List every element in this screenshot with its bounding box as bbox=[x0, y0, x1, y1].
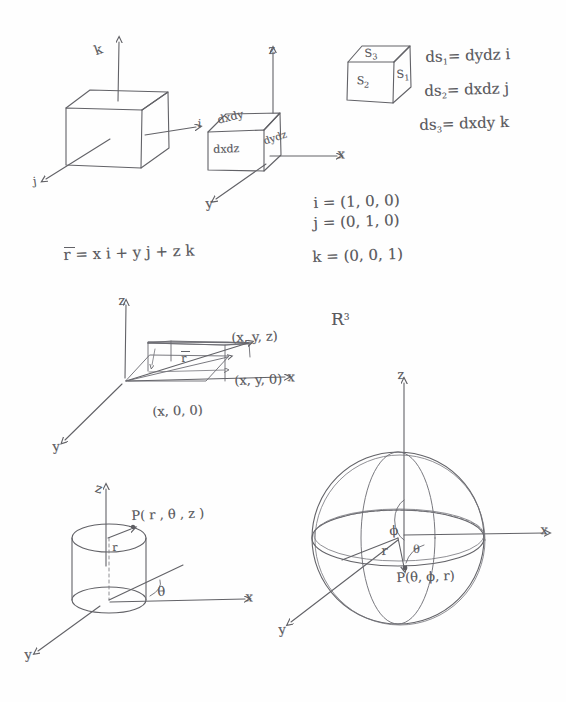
cartesian-vector-overbar bbox=[181, 351, 190, 352]
differential-cube-drawing bbox=[208, 52, 337, 199]
handwritten-ink-layer: .s { fill:none; stroke:#626267; stroke-w… bbox=[0, 0, 566, 702]
sphere-drawing bbox=[291, 383, 545, 625]
notes-page: .s { fill:none; stroke:#626267; stroke-w… bbox=[0, 0, 566, 702]
unit-cube-drawing bbox=[46, 42, 196, 179]
surface-cube-drawing bbox=[347, 46, 411, 103]
position-vector-overbar bbox=[64, 247, 75, 248]
cartesian-box-drawing bbox=[65, 305, 285, 440]
cylinder-drawing bbox=[38, 489, 245, 651]
